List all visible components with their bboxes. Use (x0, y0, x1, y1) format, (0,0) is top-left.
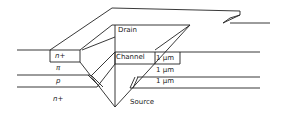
thickness-label-3: 1 μm (156, 78, 174, 85)
channel-label: Channel (116, 54, 145, 61)
diagram-canvas: Drain Channel Source n+ π p n+ 1 μm 1 μm… (0, 0, 284, 119)
p-layer-label: p (56, 78, 60, 85)
source-label: Source (130, 99, 154, 106)
drain-label: Drain (118, 27, 137, 34)
pi-layer-label: π (56, 65, 60, 72)
thickness-label-2: 1 μm (156, 67, 174, 74)
n-plus-bottom-label: n+ (53, 96, 63, 103)
contact-notch (223, 11, 240, 23)
drain-contact-outline (50, 8, 240, 50)
thickness-label-1: 1 μm (156, 55, 174, 62)
n-plus-top-label: n+ (55, 53, 65, 60)
